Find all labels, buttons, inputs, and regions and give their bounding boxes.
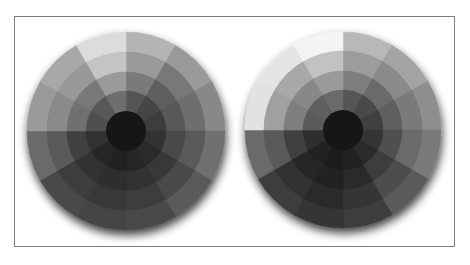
color-wheels xyxy=(0,0,470,265)
left-wheel xyxy=(27,32,225,230)
wheel-center xyxy=(106,111,146,151)
right-wheel xyxy=(245,32,441,228)
wheel-center xyxy=(323,110,363,150)
figure xyxy=(0,0,470,265)
